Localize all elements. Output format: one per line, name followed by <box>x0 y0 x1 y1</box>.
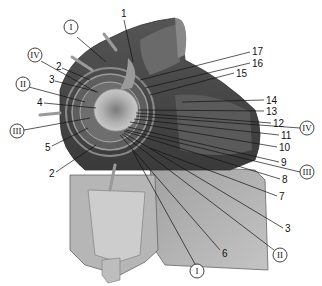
roman-label-III-left: III <box>10 124 24 138</box>
label-5: 5 <box>45 142 51 153</box>
label-15: 15 <box>236 68 248 79</box>
svg-text:IV: IV <box>30 50 40 60</box>
roman-label-II-bottom: II <box>273 248 287 262</box>
label-14: 14 <box>266 95 278 106</box>
label-8: 8 <box>282 174 288 185</box>
lower-tissue-block <box>70 165 268 283</box>
label-1: 1 <box>121 8 127 19</box>
svg-text:III: III <box>303 167 312 177</box>
roman-label-I-bottom: I <box>190 264 204 278</box>
label-2-lower: 2 <box>49 168 55 179</box>
svg-text:III: III <box>13 126 22 136</box>
roman-label-IV-right: IV <box>300 121 314 135</box>
label-10: 10 <box>279 142 291 153</box>
label-2-upper: 2 <box>56 61 62 72</box>
label-4: 4 <box>37 97 43 108</box>
svg-text:II: II <box>20 79 26 89</box>
roman-label-III-right: III <box>300 165 314 179</box>
svg-text:II: II <box>277 250 283 260</box>
label-11: 11 <box>281 130 292 141</box>
central-body <box>94 89 138 131</box>
roman-label-I-top: I <box>64 20 78 34</box>
svg-text:I: I <box>196 266 199 276</box>
svg-text:I: I <box>70 22 73 32</box>
label-6: 6 <box>222 248 228 259</box>
svg-text:IV: IV <box>302 123 312 133</box>
label-3-lower: 3 <box>285 223 291 234</box>
label-17: 17 <box>252 46 264 57</box>
label-12: 12 <box>273 118 285 129</box>
roman-label-IV-left: IV <box>28 48 42 62</box>
roman-label-II-left: II <box>16 77 30 91</box>
anatomical-diagram: 1 17 16 2 15 3 4 14 13 12 11 5 10 2 9 8 … <box>0 0 322 286</box>
label-13: 13 <box>266 106 278 117</box>
label-16: 16 <box>252 58 264 69</box>
label-3-upper: 3 <box>49 74 55 85</box>
label-7: 7 <box>279 191 285 202</box>
label-9: 9 <box>281 157 287 168</box>
